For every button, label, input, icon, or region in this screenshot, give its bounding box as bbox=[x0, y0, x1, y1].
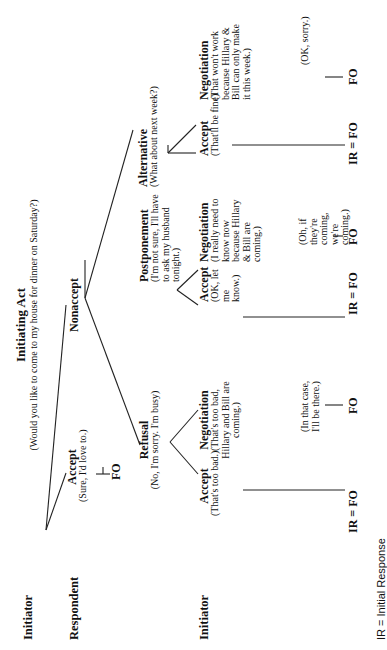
alternative-negotiation-outcome: FO bbox=[347, 68, 359, 85]
row-label-initiator-response: Initiator bbox=[198, 595, 211, 640]
alternative-negotiation-reply: (OK, sorry.) bbox=[300, 16, 311, 65]
refusal-negotiation-outcome: FO bbox=[347, 397, 359, 414]
initiating-act-utterance: (Would you like to come to my house for … bbox=[29, 175, 40, 475]
legend-ir-definition: IR = Initial Response bbox=[376, 538, 387, 640]
alternative-accept-utterance: (That'll be fine) bbox=[210, 96, 221, 156]
node-postponement-accept: Accept (OK, let me know.) bbox=[198, 262, 242, 302]
node-alternative: Alternative (What about next week?) bbox=[137, 77, 160, 187]
respondent-accept-outcome: FO bbox=[110, 463, 122, 480]
refusal-utterance: (No, I'm sorry. I'm busy) bbox=[150, 390, 161, 490]
node-nonaccept: Nonaccept bbox=[68, 278, 80, 332]
node-alternative-negotiation: Negotiation (That won't work because Hil… bbox=[198, 24, 252, 100]
postponement-utterance: (I'm not sure, I'll have to ask my husba… bbox=[150, 192, 182, 282]
node-initiating-act: Initiating Act (Would you like to come t… bbox=[14, 175, 40, 475]
refusal-accept-utterance: (That's too bad.) bbox=[210, 456, 221, 516]
refusal-negotiation-reply: (In that case, I'll be there.) bbox=[300, 374, 321, 432]
postponement-accept-utterance: (OK, let me know.) bbox=[210, 262, 242, 302]
postponement-negotiation-reply: (Oh, if they're coming, we're coming.) bbox=[298, 195, 351, 245]
node-refusal-accept: Accept (That's too bad.) bbox=[198, 456, 221, 516]
row-label-initiator: Initiator bbox=[22, 595, 35, 640]
node-respondent-accept: Accept (Sure, I'd love to.) bbox=[66, 432, 89, 502]
postponement-negotiation-utterance: (I really need to know now because Hilla… bbox=[210, 196, 263, 262]
postponement-negotiation-outcome: FO bbox=[347, 228, 359, 245]
row-label-respondent: Respondent bbox=[68, 577, 81, 640]
node-refusal: Refusal (No, I'm sorry. I'm busy) bbox=[138, 390, 161, 490]
initiating-act-title: Initiating Act bbox=[14, 175, 27, 475]
refusal-negotiation-utterance: (That's too bad, Hillary and Bill are co… bbox=[210, 380, 242, 460]
node-postponement-negotiation: Negotiation (I really need to know now b… bbox=[198, 196, 263, 262]
node-postponement: Postponement (I'm not sure, I'll have to… bbox=[138, 192, 182, 282]
postponement-accept-outcome: IR = FO bbox=[347, 272, 359, 315]
refusal-accept-outcome: IR = FO bbox=[347, 490, 359, 533]
alternative-accept-outcome: IR = FO bbox=[347, 122, 359, 165]
alternative-negotiation-utterance: (That won't work because Hillary & Bill … bbox=[210, 24, 252, 100]
respondent-accept-utterance: (Sure, I'd love to.) bbox=[78, 432, 89, 502]
node-refusal-negotiation: Negotiation (That's too bad, Hillary and… bbox=[198, 380, 242, 460]
node-alternative-accept: Accept (That'll be fine) bbox=[198, 96, 221, 156]
alternative-utterance: (What about next week?) bbox=[149, 77, 160, 187]
